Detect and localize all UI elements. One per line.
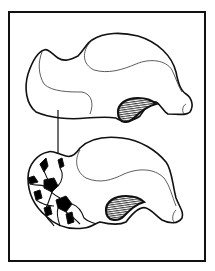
fractured-bone [28,137,183,228]
intact-bone-outline [26,33,192,120]
diagram-canvas [0,0,215,271]
intact-bone [26,33,192,122]
